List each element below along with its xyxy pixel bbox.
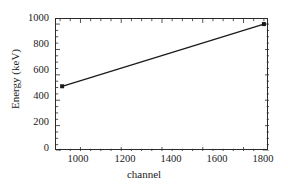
y-tick-label-0: 0 (15, 143, 49, 154)
y-tick-label-1000: 1000 (15, 13, 49, 24)
chart-figure: 1000 800 600 400 200 0 1000 1200 1400 16… (0, 0, 288, 186)
data-series (60, 22, 266, 88)
x-axis-title: channel (0, 168, 288, 180)
tick-marks (56, 19, 269, 151)
plot-canvas (56, 19, 269, 151)
y-axis-title: Energy (keV) (9, 31, 21, 127)
plot-area (55, 18, 268, 150)
x-tick-label-1400: 1400 (151, 154, 191, 165)
x-tick-label-1000: 1000 (58, 154, 98, 165)
x-tick-label-1600: 1600 (197, 154, 237, 165)
x-tick-label-1200: 1200 (105, 154, 145, 165)
x-tick-label-1800: 1800 (243, 154, 283, 165)
